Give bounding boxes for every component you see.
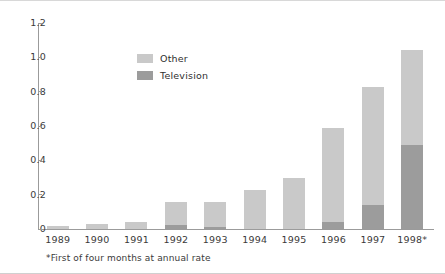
bar-segment-television[interactable]	[165, 225, 187, 229]
bar-group[interactable]	[353, 23, 392, 229]
stacked-bar[interactable]	[86, 224, 108, 229]
chart-figure: 00.20.40.60.81.01.2 19891990199119921993…	[0, 0, 445, 274]
stacked-bar[interactable]	[401, 50, 423, 229]
x-tick-label: 1994	[235, 234, 275, 245]
bar-segment-other[interactable]	[204, 202, 226, 228]
bar-segment-television[interactable]	[401, 145, 423, 229]
bar-segment-television[interactable]	[362, 205, 384, 229]
bar-group[interactable]	[235, 23, 274, 229]
stacked-bar[interactable]	[165, 202, 187, 229]
bar-group[interactable]	[314, 23, 353, 229]
legend-swatch-icon	[137, 71, 153, 80]
stacked-bar[interactable]	[244, 190, 266, 229]
stacked-bar[interactable]	[204, 202, 226, 229]
stacked-bar[interactable]	[125, 222, 147, 229]
legend-swatch-icon	[137, 54, 153, 63]
stacked-bar[interactable]	[362, 87, 384, 229]
chart-legend: OtherTelevision	[137, 51, 208, 85]
plot-area	[38, 23, 432, 229]
bar-segment-other[interactable]	[47, 226, 69, 229]
bar-group[interactable]	[77, 23, 116, 229]
bar-segment-other[interactable]	[86, 224, 108, 229]
legend-item[interactable]: Other	[137, 51, 208, 65]
x-tick-label: 1998*	[392, 234, 432, 245]
stacked-bar[interactable]	[47, 226, 69, 229]
legend-label: Television	[160, 70, 208, 81]
x-axis-line	[38, 229, 434, 230]
x-tick-label: 1995	[274, 234, 314, 245]
stacked-bar[interactable]	[283, 178, 305, 230]
chart-footnote: *First of four months at annual rate	[46, 253, 211, 263]
bar-segment-other[interactable]	[244, 190, 266, 229]
bar-group[interactable]	[38, 23, 77, 229]
stacked-bar[interactable]	[322, 128, 344, 229]
bar-segment-television[interactable]	[322, 222, 344, 229]
x-tick-label: 1996	[314, 234, 354, 245]
x-tick-label: 1991	[117, 234, 157, 245]
bar-segment-other[interactable]	[125, 222, 147, 229]
x-tick-label: 1997	[353, 234, 393, 245]
x-tick-label: 1989	[38, 234, 78, 245]
bar-group[interactable]	[393, 23, 432, 229]
bar-segment-other[interactable]	[165, 202, 187, 224]
bar-segment-other[interactable]	[401, 50, 423, 144]
legend-label: Other	[160, 53, 188, 64]
x-tick-label: 1990	[77, 234, 117, 245]
bar-segment-other[interactable]	[362, 87, 384, 205]
x-tick-label: 1993	[195, 234, 235, 245]
legend-item[interactable]: Television	[137, 68, 208, 82]
x-tick-label: 1992	[156, 234, 196, 245]
bar-segment-other[interactable]	[322, 128, 344, 222]
bar-segment-other[interactable]	[283, 178, 305, 230]
bar-group[interactable]	[274, 23, 313, 229]
bar-segment-television[interactable]	[204, 227, 226, 229]
